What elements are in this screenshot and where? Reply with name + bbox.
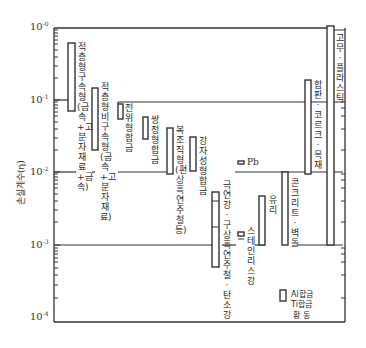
label-rubber: 고무·플라스틱 [335,33,345,103]
label-pb: Pb [247,157,259,167]
label-plywood: 합판·코르크·목재 [313,80,323,170]
label-ferromagnetic-alloy: 강자성형합금 [198,136,208,196]
bar-stainless [238,232,244,236]
bar-glass [259,196,265,245]
bar-plywood [305,80,311,174]
bar-pb [238,161,244,164]
label-composite-structure: 복조직형(편상흑연주철 등) [175,125,185,235]
bar-concrete [282,172,288,245]
bar-rubber [327,26,334,245]
bar-constrained-laminate [68,43,75,111]
label-mild-steel: 극연강·구상흑연주철·탄소강 [222,180,232,320]
bar-twin-alloy [143,117,148,139]
label-twin-alloy: 쌍정형합금 [150,115,160,165]
label-constrained-laminate: 적층형구속형(금속+고분자재료+금속) [77,42,87,192]
bar-al-ti-brass [280,290,286,301]
label-dislocation-alloy: 전위형합금 [124,103,134,153]
y-axis-label: 손실계수(η) [14,160,27,205]
label-concrete: 콘크리트·벽돌 [290,178,300,248]
label-brass: 황 동 [293,309,310,320]
y-tick-1e0: 10-0 [30,20,49,32]
bar-ferromagnetic-alloy [190,137,196,171]
label-glass: 유리 [268,195,278,215]
label-stainless: 스테인리스강 [246,226,256,286]
y-tick-1e-3: 10-3 [30,238,49,250]
left-minor-ticks [54,30,60,298]
y-tick-1e-1: 10-1 [30,93,49,105]
label-ti-alloy: Ti합금 [291,298,312,309]
bar-composite-structure [167,128,173,174]
y-tick-1e-2: 10-2 [30,165,49,177]
bar-mild-steel [212,192,219,267]
bar-dislocation-alloy [118,104,123,119]
bar-unconstrained-laminate [92,88,98,150]
label-unconstrained-laminate: 적층형비구속형(금속+고분자재료) [100,82,110,222]
y-tick-1e-4: 10-4 [30,310,49,322]
